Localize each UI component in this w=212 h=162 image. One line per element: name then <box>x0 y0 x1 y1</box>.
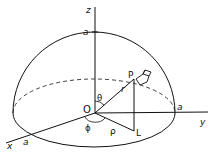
label-rho: ρ <box>110 126 116 136</box>
hemisphere-spherical-coordinates-diagram: z a P r θ O a y ϕ ρ L x a <box>0 0 212 162</box>
phi-arc <box>85 117 105 122</box>
equator-back-dashed <box>13 79 175 113</box>
label-theta: θ <box>97 93 102 103</box>
label-o: O <box>83 104 91 115</box>
label-a-right: a <box>177 102 183 112</box>
x-axis <box>6 113 95 143</box>
label-a-top: a <box>83 27 89 37</box>
label-z: z <box>85 5 91 15</box>
label-r: r <box>121 84 126 94</box>
label-p: P <box>128 70 134 80</box>
label-l: L <box>136 128 141 138</box>
label-phi: ϕ <box>85 123 91 133</box>
volume-element-icon <box>136 70 151 85</box>
label-x: x <box>6 141 13 151</box>
label-y: y <box>199 117 206 127</box>
label-a-front: a <box>23 137 29 147</box>
y-axis <box>95 112 208 113</box>
equator-front <box>13 113 175 147</box>
